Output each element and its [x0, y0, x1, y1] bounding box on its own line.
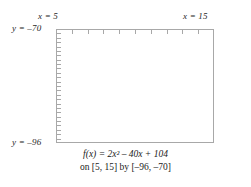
caption-function: f(x) = 2x² – 40x + 104: [0, 148, 251, 161]
caption-window: on [5, 15] by [–96, –70]: [0, 161, 251, 174]
y-min-label: y = –96: [12, 137, 41, 147]
x-max-label: x = 15: [183, 11, 208, 21]
plot-area: [56, 29, 214, 143]
figure-caption: f(x) = 2x² – 40x + 104 on [5, 15] by [–9…: [0, 148, 251, 174]
y-max-label: y = –70: [12, 23, 41, 33]
graph-figure: x = 5 x = 15 y = –70 y = –96 f(x) = 2x² …: [0, 0, 251, 187]
x-min-label: x = 5: [38, 11, 58, 21]
plot-border: [57, 30, 214, 143]
